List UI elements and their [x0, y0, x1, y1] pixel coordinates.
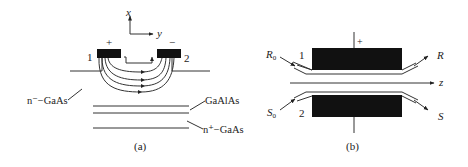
electrode-1 [97, 49, 121, 58]
electrode-2-number: 2 [184, 52, 190, 64]
top-electrode [312, 48, 402, 70]
plus-sign: + [106, 36, 112, 48]
electrode-2 [157, 49, 181, 58]
y-axis-label: y [156, 27, 162, 39]
r-arrow [414, 56, 428, 66]
caption-b: (b) [346, 140, 359, 153]
n-minus-gaas-label: n⁻−GaAs [27, 95, 68, 106]
axes-icon [130, 16, 153, 34]
bottom-electrode [312, 95, 402, 117]
gaalas-label: GaAlAs [205, 95, 239, 106]
r0-arrow [280, 57, 295, 66]
figure-canvas: x y + − 1 2 n⁻−GaAs GaAlAs n [0, 0, 468, 167]
r-label: R [436, 49, 444, 61]
s0-label: S0 [267, 106, 277, 120]
s0-arrow [280, 99, 295, 110]
plus-sign: + [357, 36, 363, 47]
caption-a: (a) [134, 140, 147, 153]
n-plus-gaas-label: n⁺−GaAs [203, 124, 244, 135]
s-arrow [414, 100, 428, 110]
r0-label: R0 [265, 48, 277, 62]
leader-line [190, 101, 205, 110]
x-axis-label: x [125, 6, 131, 18]
panel-a: x y + − 1 2 n⁻−GaAs GaAlAs n [27, 6, 244, 153]
minus-sign: − [169, 36, 175, 48]
panel-b: + z R0 R S0 S 1 2 ( [265, 32, 444, 153]
guide-1-number: 1 [299, 49, 305, 61]
leader-line [187, 121, 203, 129]
guide-2-number: 2 [299, 107, 305, 119]
leader-line [68, 89, 82, 100]
s-label: S [438, 110, 444, 122]
z-axis-label: z [438, 76, 444, 88]
electrode-1-number: 1 [87, 51, 93, 63]
